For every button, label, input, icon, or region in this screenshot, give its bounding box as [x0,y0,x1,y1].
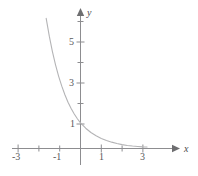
graph-figure: -3 -1 1 3 1 3 5 x y [0,0,198,176]
exponential-decay-curve [46,18,147,147]
y-tick-label-5: 5 [69,37,74,47]
y-tick-label-1: 1 [70,119,75,129]
arrow-right-icon [172,145,180,152]
x-tick-label-neg3: -3 [12,152,20,162]
x-axis-label: x [184,144,188,154]
coordinate-plane [0,0,198,176]
x-tick-label-pos3: 3 [140,152,145,162]
x-tick-label-neg1: -1 [53,152,61,162]
x-tick-label-pos1: 1 [99,152,104,162]
arrow-up-icon [77,8,84,16]
y-tick-label-3: 3 [69,78,74,88]
y-axis-label: y [87,8,91,18]
